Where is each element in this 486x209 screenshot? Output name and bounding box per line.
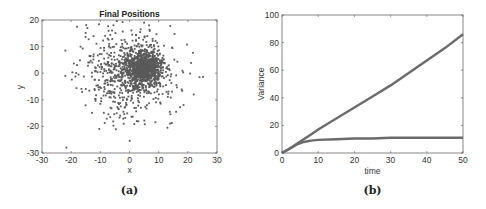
y-tick-label: 0	[34, 68, 39, 78]
x-tick-label: 10	[154, 155, 164, 165]
x-axis-label-a: x	[127, 165, 132, 175]
x-tick-label: 40	[422, 155, 432, 165]
x-tick-label: -20	[65, 155, 78, 165]
x-tick-label: 50	[458, 155, 468, 165]
x-tick-label: 30	[386, 155, 396, 165]
y-axis-label-b: Variance	[256, 67, 266, 100]
x-tick-label: 0	[280, 155, 285, 165]
x-tick-label: 20	[183, 155, 193, 165]
x-axis-label-b: time	[364, 166, 380, 176]
caption-a: (a)	[121, 184, 139, 197]
x-tick-label: -10	[94, 155, 107, 165]
y-tick-label: 100	[265, 10, 279, 20]
y-tick-label: -20	[27, 121, 40, 131]
y-tick-label: 40	[270, 93, 280, 103]
x-tick-label: 30	[212, 155, 222, 165]
x-tick-label: 10	[313, 155, 323, 165]
y-axis-label-a: y	[15, 84, 25, 89]
y-tick-label: 80	[270, 38, 280, 48]
y-tick-label: 20	[270, 120, 280, 130]
scatter-plot-final-positions: -30-20-100102030-30-20-1001020 Final Pos…	[15, 9, 222, 197]
y-tick-label: -10	[27, 95, 40, 105]
y-tick-label: 10	[30, 42, 40, 52]
caption-b: (b)	[363, 184, 381, 197]
x-tick-label: 0	[127, 155, 132, 165]
plot-area-b	[282, 15, 463, 153]
chart-title-a: Final Positions	[99, 9, 160, 19]
figure: -30-20-100102030-30-20-1001020 Final Pos…	[0, 0, 486, 209]
y-tick-label: 60	[270, 65, 280, 75]
x-tick-label: 20	[350, 155, 360, 165]
line-plot-variance: 01020304050020406080100 time Variance (b…	[256, 10, 468, 197]
y-tick-label: 0	[274, 148, 279, 158]
y-tick-label: 20	[30, 15, 40, 25]
y-tick-label: -30	[27, 148, 40, 158]
